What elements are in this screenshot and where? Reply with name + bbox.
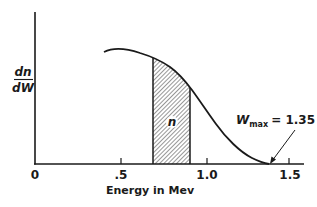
wmax-value: = 1.35 — [271, 113, 315, 127]
tick-label-0: 0 — [31, 168, 39, 182]
wmax-label: Wmax= 1.35 — [236, 113, 315, 129]
wmax-subscript: max — [249, 120, 269, 129]
tick-label-1-0: 1.0 — [196, 168, 217, 182]
tick-label-0-5: .5 — [115, 168, 128, 182]
arrow-line — [272, 130, 295, 161]
y-axis-label: dn dW — [12, 65, 35, 95]
wmax-symbol: W — [236, 113, 250, 127]
tick-label-1-5: 1.5 — [279, 168, 300, 182]
x-axis-title: Energy in Mev — [106, 184, 195, 197]
y-axis-label-numerator: dn — [14, 65, 31, 79]
y-axis-label-denominator: dW — [12, 81, 35, 95]
region-label-n: n — [168, 115, 177, 129]
beta-spectrum-diagram: n 0 .5 1.0 1.5 Energy in Mev dn dW Wmax=… — [0, 0, 317, 207]
shaded-region-n: n — [153, 58, 190, 164]
